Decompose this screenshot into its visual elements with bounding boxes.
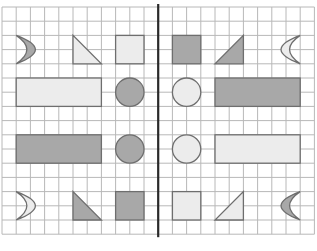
rect-row2-right-shape [215,78,300,106]
rect-row3-right-shape [215,135,300,163]
square-bottom-left-shape [116,192,144,220]
symmetry-grid-board [0,0,317,251]
rect-row3-left-shape [16,135,101,163]
rect-row2-left-shape [16,78,101,106]
circle-row3-left-shape [116,135,144,163]
square-top-right-shape [172,35,200,63]
circle-row3-right-shape [172,135,200,163]
circle-row2-left-shape [116,78,144,106]
circle-row2-right-shape [172,78,200,106]
square-top-left-shape [116,35,144,63]
square-bottom-right-shape [172,192,200,220]
